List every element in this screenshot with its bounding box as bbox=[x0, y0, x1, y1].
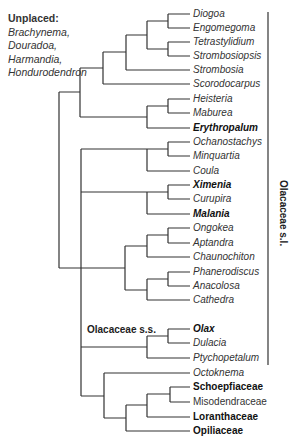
leaf-label: Coula bbox=[193, 165, 219, 177]
leaf-label: Malania bbox=[193, 208, 230, 220]
leaf-label: Strombosia bbox=[193, 64, 244, 76]
leaf-label: Dulacia bbox=[193, 337, 226, 349]
clade-label-olacaceae-ss: Olacaceae s.s. bbox=[87, 324, 156, 335]
leaf-label: Cathedra bbox=[193, 294, 234, 306]
leaf-label: Opiliaceae bbox=[193, 425, 243, 437]
unplaced-genus: Hondurodendron bbox=[8, 66, 87, 80]
unplaced-genus: Brachynema, bbox=[8, 26, 87, 40]
leaf-label: Chaunochiton bbox=[193, 251, 255, 263]
leaf-label: Ximenia bbox=[193, 179, 231, 191]
leaf-label: Strombosiopsis bbox=[193, 50, 261, 62]
leaf-label: Minquartia bbox=[193, 150, 240, 162]
leaf-label: Erythropalum bbox=[193, 122, 258, 134]
leaf-label: Ptychopetalum bbox=[193, 352, 259, 364]
unplaced-genera-note: Unplaced: Brachynema, Douradoa, Harmandi… bbox=[8, 12, 87, 80]
unplaced-genus: Douradoa, bbox=[8, 39, 87, 53]
leaf-label: Loranthaceae bbox=[193, 411, 258, 423]
leaf-label: Anacolosa bbox=[193, 280, 240, 292]
leaf-label: Olax bbox=[193, 323, 215, 335]
leaf-label: Heisteria bbox=[193, 93, 232, 105]
leaf-label: Curupira bbox=[193, 193, 231, 205]
leaf-label: Tetrastylidium bbox=[193, 36, 254, 48]
leaf-label: Misodendraceae bbox=[193, 396, 267, 408]
leaf-label: Scorodocarpus bbox=[193, 78, 260, 90]
unplaced-genus: Harmandia, bbox=[8, 53, 87, 67]
leaf-label: Phanerodiscus bbox=[193, 266, 259, 278]
leaf-label: Octoknema bbox=[193, 367, 244, 379]
leaf-label: Maburea bbox=[193, 107, 232, 119]
leaf-label: Diogoa bbox=[193, 8, 225, 20]
leaf-label: Aptandra bbox=[193, 237, 234, 249]
leaf-label: Schoepfiaceae bbox=[193, 381, 263, 393]
clade-label-olacaceae-sl: Olacaceae s.l. bbox=[278, 180, 289, 246]
unplaced-header: Unplaced: bbox=[8, 12, 87, 26]
leaf-label: Engomegoma bbox=[193, 22, 255, 34]
leaf-label: Ochanostachys bbox=[193, 136, 262, 148]
leaf-label: Ongokea bbox=[193, 222, 234, 234]
